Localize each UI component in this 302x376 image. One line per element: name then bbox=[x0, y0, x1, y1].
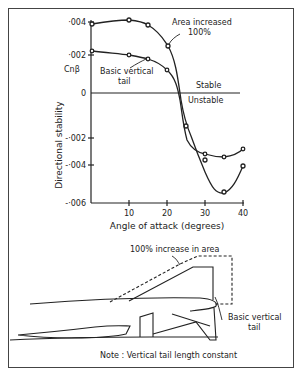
annotation-area-increased: Area increased bbox=[172, 18, 232, 27]
cnb-symbol: Cnβ bbox=[64, 65, 80, 74]
diagram-note: Note : Vertical tail length constant bbox=[100, 351, 237, 360]
x-tick-label: 20 bbox=[162, 209, 172, 218]
x-axis-label: Angle of attack (degrees) bbox=[110, 221, 224, 231]
region-unstable-label: Unstable bbox=[188, 96, 223, 105]
y-tick-label: -·002 bbox=[65, 134, 86, 143]
x-tick-label: 30 bbox=[200, 209, 210, 218]
y-tick-label: -·006 bbox=[65, 199, 86, 208]
x-tick-label: 40 bbox=[238, 209, 248, 218]
y-tick-label: 0 bbox=[81, 89, 86, 98]
label-increase-area: 100% increase in area bbox=[130, 245, 219, 254]
y-tick-label: ·002 bbox=[68, 51, 86, 60]
figure: ·004 ·002 0 -·002 -·004 -·006 10 20 30 4… bbox=[0, 0, 302, 376]
label-basic-vertical-tail: Basic vertical bbox=[228, 313, 282, 322]
aircraft-diagram bbox=[10, 256, 232, 340]
chart-axes bbox=[88, 20, 244, 206]
y-tick-label: ·004 bbox=[68, 18, 86, 27]
series-area-increased bbox=[90, 18, 245, 194]
x-tick-label: 10 bbox=[124, 209, 134, 218]
annotation-basic-tail-2: tail bbox=[118, 77, 130, 86]
region-stable-label: Stable bbox=[196, 81, 221, 90]
y-axis-label: Directional stability bbox=[54, 101, 64, 189]
y-tick-label: -·004 bbox=[65, 161, 86, 170]
annotation-area-increased-pct: 100% bbox=[188, 28, 211, 37]
label-basic-vertical-tail-2: tail bbox=[248, 323, 260, 332]
annotation-basic-tail: Basic vertical bbox=[100, 67, 154, 76]
